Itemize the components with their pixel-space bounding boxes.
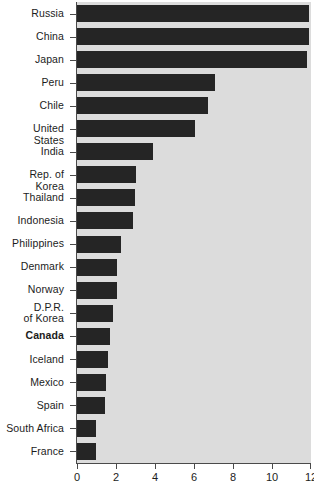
category-label: India <box>41 146 64 158</box>
category-label: Iceland <box>29 354 64 366</box>
category-label: Philippines <box>12 238 64 250</box>
plot-area <box>77 2 311 463</box>
value-tick <box>155 464 156 469</box>
value-tick-label: 12 <box>305 471 314 484</box>
value-tick-label: 10 <box>266 471 278 484</box>
category-tick <box>70 14 76 15</box>
y-axis-line <box>76 2 77 464</box>
value-tick-label: 6 <box>191 471 197 484</box>
bar <box>77 189 135 206</box>
value-tick-label: 8 <box>230 471 236 484</box>
category-tick <box>70 60 76 61</box>
bar <box>77 28 309 45</box>
category-label: Peru <box>41 77 64 89</box>
category-label: Russia <box>31 8 64 20</box>
bar <box>77 397 105 414</box>
category-tick <box>70 359 76 360</box>
value-tick <box>310 464 311 469</box>
bar-chart: RussiaChinaJapanPeruChileUnited StatesIn… <box>0 0 314 496</box>
category-tick <box>70 129 76 130</box>
category-label: France <box>31 446 64 458</box>
bar <box>77 374 106 391</box>
bar <box>77 305 113 322</box>
bar <box>77 328 110 345</box>
category-label: Mexico <box>30 377 64 389</box>
category-label: South Africa <box>6 423 64 435</box>
category-tick <box>70 221 76 222</box>
bar <box>77 51 307 68</box>
category-tick <box>70 244 76 245</box>
category-label: United States <box>0 123 64 146</box>
bar <box>77 443 96 460</box>
category-label: Chile <box>40 100 64 112</box>
value-tick <box>272 464 273 469</box>
category-label: Norway <box>28 284 64 296</box>
category-label: Rep. of Korea <box>0 169 64 192</box>
category-tick <box>70 175 76 176</box>
bars-layer <box>77 2 311 463</box>
value-tick <box>194 464 195 469</box>
category-tick <box>70 313 76 314</box>
bar <box>77 166 136 183</box>
value-tick-label: 2 <box>113 471 119 484</box>
category-label: Spain <box>37 400 64 412</box>
bar <box>77 5 309 22</box>
category-tick <box>70 451 76 452</box>
bar <box>77 212 133 229</box>
value-tick-label: 0 <box>74 471 80 484</box>
bar <box>77 259 117 276</box>
bar <box>77 143 153 160</box>
value-tick-label: 4 <box>152 471 158 484</box>
bar <box>77 74 215 91</box>
category-label: Canada <box>25 330 64 342</box>
category-axis-labels: RussiaChinaJapanPeruChileUnited StatesIn… <box>0 0 72 496</box>
category-tick <box>70 106 76 107</box>
category-label: Indonesia <box>18 215 64 227</box>
category-tick <box>70 405 76 406</box>
bar <box>77 351 108 368</box>
category-tick <box>70 83 76 84</box>
category-label: Japan <box>35 54 64 66</box>
category-label: Denmark <box>21 261 64 273</box>
category-tick <box>70 382 76 383</box>
category-tick <box>70 428 76 429</box>
category-tick <box>70 198 76 199</box>
bar <box>77 282 117 299</box>
value-tick <box>233 464 234 469</box>
bar <box>77 236 121 253</box>
bar <box>77 420 96 437</box>
category-label: D.P.R. of Korea <box>24 302 65 325</box>
category-label: Thailand <box>23 192 64 204</box>
category-tick <box>70 152 76 153</box>
value-tick <box>116 464 117 469</box>
category-tick <box>70 37 76 38</box>
category-tick <box>70 336 76 337</box>
value-tick <box>77 464 78 469</box>
category-label: China <box>36 31 64 43</box>
category-tick <box>70 290 76 291</box>
bar <box>77 120 195 137</box>
category-tick <box>70 267 76 268</box>
bar <box>77 97 208 114</box>
